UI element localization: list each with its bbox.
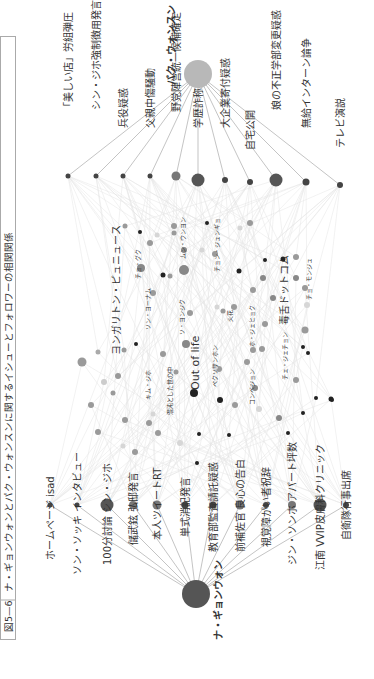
follower-label: チョン・ジュンギョ: [213, 218, 221, 272]
hub-park: パク・ウォンスン: [166, 5, 212, 88]
issue-node: 自衛隊行事出席: [340, 470, 352, 540]
issue-label: 自宅公開: [244, 110, 256, 150]
figure-title-strip: 図5—6 ナ・ギョンウォンとパク・ウォンスンに関するイシューとフォロワーの相関関…: [0, 37, 16, 640]
follower-node: [304, 302, 310, 308]
follower-node: [262, 321, 268, 327]
follower-node: [132, 449, 138, 455]
follower-node: [88, 402, 94, 408]
issue-node: ソン・ソッキ インタビュー: [72, 452, 83, 575]
follower-node: [215, 305, 220, 310]
issue-node: 本人ツイートRT: [151, 467, 163, 540]
follower-node: [168, 274, 173, 279]
hub-na-node: [182, 580, 210, 608]
follower-node: [301, 411, 305, 415]
issue-node: 父親中傷騒動: [144, 68, 156, 179]
follower-node: [155, 430, 161, 436]
follower-label: ソ・ヨンジク: [178, 299, 185, 335]
follower-node: [276, 415, 282, 421]
issue-label: 自衛隊行事出席: [340, 470, 352, 540]
follower-label: ホ・ジェヒョク: [248, 305, 256, 347]
follower-label: Out of life: [189, 335, 202, 390]
issue-label: 江南 VVIP皮膚科クリニック: [314, 444, 326, 570]
issue-node: テレビ演説: [334, 98, 346, 188]
hub-park-label: パク・ウォンスン: [166, 5, 177, 85]
follower-node: [95, 429, 101, 435]
follower-node: [238, 226, 243, 231]
issue-label: 視覚障がい者祝辞: [260, 467, 272, 547]
follower-node: [146, 420, 152, 426]
follower-node: [260, 275, 266, 281]
issue-node: シン・ジホ強制徴用発言: [90, 0, 102, 179]
follower-node: [306, 351, 310, 355]
follower-node: [302, 327, 309, 334]
follower-label: チェ・ジェチョン: [281, 332, 289, 380]
follower-node: [221, 309, 226, 314]
figure-number: 図5—6: [3, 600, 14, 632]
follower-node: [122, 417, 128, 423]
follower-node: [227, 433, 231, 437]
issue-label: 大企業寄付疑惑: [219, 58, 231, 128]
issue-label: 父親中傷騒動: [144, 68, 156, 128]
follower-node: [247, 220, 253, 226]
follower-node: [197, 432, 201, 436]
follower-label: ソン・ヨーナム: [144, 288, 151, 330]
follower-node: [78, 358, 87, 367]
follower-node: [293, 254, 299, 260]
follower-node: [231, 304, 237, 310]
issue-label: ホームページ isad: [45, 476, 56, 560]
follower-node: [250, 287, 256, 293]
follower-node: [161, 273, 166, 278]
issue-label: 100分討論 シン・ジホ: [101, 463, 113, 565]
follower-node: [134, 342, 138, 346]
follower-node: [244, 359, 250, 365]
issue-label: 兵役疑惑: [117, 88, 129, 128]
follower-node: [259, 346, 265, 352]
issue-node: 儲武鉉 弘邸発言: [127, 472, 139, 545]
issue-label: テレビ演説: [334, 98, 346, 148]
follower-label: チョ・モンジュ: [305, 258, 313, 300]
follower-node: [293, 275, 299, 281]
follower-label: 火花: [226, 310, 234, 322]
follower-label: ムン・ウンヨン: [179, 217, 186, 259]
follower-node: [151, 412, 156, 417]
follower-node: [177, 440, 183, 446]
follower-node: [122, 348, 127, 353]
follower-node: [330, 398, 334, 402]
follower-node: [111, 391, 116, 396]
issue-label: 単式消記発言: [179, 477, 191, 537]
issue-node: 単式消記発言: [179, 477, 191, 537]
follower-label: キム・ジホ: [144, 370, 151, 400]
follower-node: [205, 221, 209, 225]
issue-node: 前補佐官 良心の告白: [234, 459, 246, 552]
follower-node: [232, 402, 238, 408]
follower-node: [160, 351, 166, 357]
issue-label: シン・ジホ強制徴用発言: [90, 0, 102, 110]
hub-na: ナ・ギョンウォン: [182, 560, 224, 640]
issue-node: 江南 VVIP皮膚科クリニック: [314, 444, 327, 570]
follower-node: [147, 240, 153, 246]
follower-node: [138, 230, 142, 234]
follower-node: [172, 231, 177, 236]
follower-node: [195, 461, 199, 465]
issue-label: 教育部監査請託疑惑: [207, 462, 219, 552]
follower-label: コンベジョン: [248, 369, 256, 405]
figure-title: ナ・ギョンウォンとパク・ウォンスンに関するイシューとフォロワーの相関関係: [3, 232, 14, 592]
follower-node: [286, 431, 290, 435]
follower-node: [293, 377, 299, 383]
issue-label: ジン・ソンホ アパート坪数: [286, 442, 298, 565]
follower-node: [96, 350, 101, 355]
issue-label: 前補佐官 良心の告白: [234, 459, 246, 552]
follower-label: チョ・グク: [134, 249, 142, 279]
follower-node: [263, 258, 267, 262]
follower-node: [314, 396, 318, 400]
follower-label: ペクソサンホン: [211, 345, 218, 387]
follower-node: [237, 269, 242, 274]
follower-node: [123, 224, 128, 229]
follower-node: [217, 397, 223, 403]
follower-node: [187, 310, 193, 316]
follower-node: [101, 379, 107, 385]
follower-node: [155, 233, 160, 238]
issue-label: ソン・ソッキ インタビュー: [72, 452, 83, 575]
follower-node: [115, 373, 121, 379]
follower-label: 毒舌ドットコム: [278, 255, 290, 325]
